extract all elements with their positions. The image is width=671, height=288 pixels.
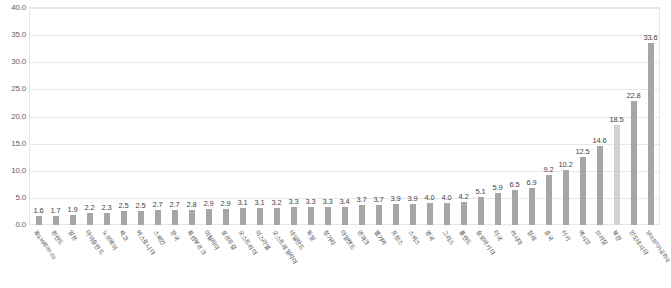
bar[interactable] xyxy=(172,210,178,225)
bar-slot: 33.6 xyxy=(642,8,659,225)
x-axis-label-slot: 오스트리아 xyxy=(234,227,251,288)
x-axis-label: 영국 xyxy=(423,229,435,242)
bar-slot: 6.9 xyxy=(523,8,540,225)
x-axis-label: 터키 xyxy=(559,229,571,242)
x-axis-labels: 몰도바/루마니아핀란드일본아이슬란드노르웨이체코에스토니아스페인한국룩셈부르크이… xyxy=(30,227,659,288)
bar[interactable] xyxy=(580,157,586,225)
bar[interactable] xyxy=(546,175,552,225)
bar[interactable] xyxy=(155,210,161,225)
bar-value-label: 2.3 xyxy=(102,204,112,212)
bar[interactable] xyxy=(342,207,348,225)
bar[interactable] xyxy=(512,190,518,225)
bar[interactable] xyxy=(359,205,365,225)
x-axis-label-slot: 미국 xyxy=(489,227,506,288)
x-axis-label-slot: 러시아 xyxy=(506,227,523,288)
bar-slot: 1.6 xyxy=(30,8,47,225)
x-axis-label: 멕시코 xyxy=(576,229,591,247)
bar[interactable] xyxy=(70,215,76,225)
bar-value-label: 3.2 xyxy=(272,199,282,207)
x-axis-label: 헝가리 xyxy=(321,229,336,247)
x-axis-label: 북한 xyxy=(610,229,622,242)
bar[interactable] xyxy=(325,207,331,225)
bar[interactable] xyxy=(478,197,484,225)
x-axis-label-slot: 아이슬란드 xyxy=(81,227,98,288)
bar-slot: 6.5 xyxy=(506,8,523,225)
bar[interactable] xyxy=(648,43,654,225)
bar[interactable] xyxy=(240,208,246,225)
bar-slot: 2.3 xyxy=(98,8,115,225)
bar[interactable] xyxy=(257,208,263,225)
bar-value-label: 2.5 xyxy=(136,202,146,210)
x-axis-label-slot: 이스라엘 xyxy=(251,227,268,288)
bar-value-label: 3.7 xyxy=(357,196,367,204)
x-axis-label-slot: 칠레 xyxy=(523,227,540,288)
bar-value-label: 5.1 xyxy=(476,188,486,196)
bar-value-label: 2.9 xyxy=(204,200,214,208)
x-axis-label-slot: 룩셈부르크 xyxy=(183,227,200,288)
bar-slot: 3.9 xyxy=(387,8,404,225)
x-axis-label: 그리스 xyxy=(440,229,455,247)
y-axis-tick: 30.0 xyxy=(11,58,26,66)
bar[interactable] xyxy=(308,207,314,225)
x-axis-label-slot: 몰도바/루마니아 xyxy=(30,227,47,288)
x-axis-label-slot: 핀란드 xyxy=(47,227,64,288)
bar-slot: 2.2 xyxy=(81,8,98,225)
x-axis-label-slot: 인도네시아 xyxy=(625,227,642,288)
bar[interactable] xyxy=(274,208,280,225)
bar[interactable] xyxy=(36,216,42,225)
bar[interactable] xyxy=(189,210,195,225)
bar-slot: 3.7 xyxy=(353,8,370,225)
bar-slot: 2.7 xyxy=(149,8,166,225)
x-axis-label-slot: 덴마크 xyxy=(353,227,370,288)
bar-slot: 3.1 xyxy=(251,8,268,225)
y-axis-tick: 25.0 xyxy=(11,85,26,93)
x-axis-label: 중국 xyxy=(542,229,554,242)
bar-value-label: 3.9 xyxy=(391,195,401,203)
bar-value-label: 3.3 xyxy=(289,198,299,206)
x-axis-label-slot: 영국 xyxy=(421,227,438,288)
bar-value-label: 4.0 xyxy=(442,194,452,202)
bar-value-label: 3.3 xyxy=(323,198,333,206)
bar-value-label: 2.8 xyxy=(187,201,197,209)
bar[interactable] xyxy=(291,207,297,225)
bar[interactable] xyxy=(87,213,93,225)
x-axis-label-slot: 일본 xyxy=(64,227,81,288)
x-axis-label: 브라질 xyxy=(593,229,608,247)
bar-value-label: 1.9 xyxy=(68,206,78,214)
bar-value-label: 12.5 xyxy=(576,148,590,156)
x-axis-label-slot: 멕시코 xyxy=(574,227,591,288)
bar-value-label: 6.9 xyxy=(527,179,537,187)
bar[interactable] xyxy=(104,213,110,225)
y-axis-tick: 15.0 xyxy=(11,140,26,148)
bar[interactable] xyxy=(393,204,399,225)
x-axis-label: 일본 xyxy=(66,229,78,242)
x-axis-label: 벨기에 xyxy=(372,229,387,247)
bar-value-label: 2.7 xyxy=(153,201,163,209)
bar[interactable] xyxy=(223,209,229,225)
x-axis-label-slot: 스위스 xyxy=(404,227,421,288)
bar[interactable] xyxy=(138,211,144,225)
bar[interactable] xyxy=(444,203,450,225)
bar-value-label: 9.2 xyxy=(544,166,554,174)
x-axis-label-slot: 벨기에 xyxy=(370,227,387,288)
bar[interactable] xyxy=(121,211,127,225)
bar[interactable] xyxy=(631,101,637,225)
x-axis-label-slot: 그리스 xyxy=(438,227,455,288)
bar[interactable] xyxy=(495,193,501,225)
bar-slot: 22.8 xyxy=(625,8,642,225)
bar[interactable] xyxy=(376,205,382,225)
bar[interactable] xyxy=(53,216,59,225)
bar[interactable] xyxy=(410,204,416,225)
bar[interactable] xyxy=(529,188,535,225)
bar-value-label: 14.6 xyxy=(593,137,607,145)
x-axis-label-slot: 포르투갈 xyxy=(217,227,234,288)
bar[interactable] xyxy=(427,203,433,225)
bar[interactable] xyxy=(206,209,212,225)
x-axis-label-slot: 헝가리 xyxy=(319,227,336,288)
bar[interactable] xyxy=(563,170,569,225)
chart-title xyxy=(430,0,664,5)
bar[interactable] xyxy=(461,202,467,225)
bar[interactable] xyxy=(597,146,603,225)
bar[interactable] xyxy=(614,125,620,225)
